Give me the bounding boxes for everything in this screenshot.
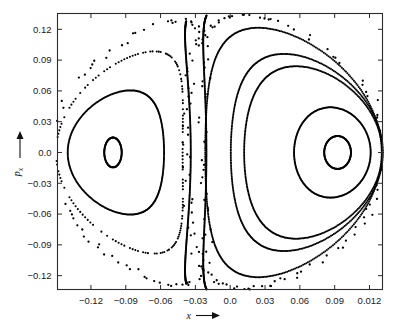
- data-point: [208, 262, 210, 264]
- data-point: [182, 102, 184, 104]
- x-tick-label: −0.12: [79, 295, 103, 306]
- data-point: [361, 212, 363, 214]
- data-point: [205, 251, 207, 253]
- data-point: [355, 220, 357, 222]
- data-point: [187, 284, 189, 286]
- x-tick-label: 0.012: [358, 295, 382, 306]
- data-point: [361, 91, 363, 93]
- data-point: [205, 111, 207, 113]
- data-point: [376, 116, 378, 118]
- data-point: [201, 268, 203, 270]
- data-point: [156, 50, 158, 52]
- data-point: [205, 190, 207, 192]
- data-point: [376, 114, 378, 116]
- data-point: [89, 221, 91, 223]
- data-point: [363, 94, 365, 96]
- data-point: [204, 151, 206, 153]
- data-point: [216, 279, 218, 281]
- data-point: [322, 261, 324, 263]
- data-point: [180, 227, 182, 229]
- data-point: [121, 152, 123, 154]
- y-tick-label: 0.06: [33, 85, 52, 96]
- data-point: [111, 255, 113, 257]
- data-point: [308, 38, 310, 40]
- data-point: [93, 60, 95, 62]
- y-axis-title-subscript: x: [16, 167, 25, 172]
- data-point: [129, 56, 131, 58]
- data-point: [182, 155, 184, 157]
- data-point: [123, 245, 125, 247]
- data-point: [129, 247, 131, 249]
- data-point: [185, 18, 187, 20]
- data-point: [309, 263, 311, 265]
- data-point: [72, 202, 74, 204]
- data-point: [204, 168, 206, 170]
- data-point: [132, 55, 134, 57]
- data-point: [76, 224, 78, 226]
- data-point: [205, 124, 207, 126]
- data-point: [334, 57, 336, 59]
- x-axis-title: x: [186, 310, 192, 321]
- data-point: [143, 276, 145, 278]
- data-point: [142, 52, 144, 54]
- data-point: [121, 44, 123, 46]
- data-point: [145, 277, 147, 279]
- data-point: [269, 285, 271, 287]
- data-point: [205, 113, 207, 115]
- data-point: [187, 87, 189, 89]
- data-point: [205, 118, 207, 120]
- data-point: [168, 249, 170, 251]
- data-point: [201, 85, 203, 87]
- data-point: [160, 252, 162, 254]
- data-point: [87, 84, 89, 86]
- data-point: [200, 182, 202, 184]
- data-point: [205, 177, 207, 179]
- data-point: [182, 179, 184, 181]
- data-point: [365, 208, 367, 210]
- data-point: [137, 250, 139, 252]
- data-point: [253, 285, 255, 287]
- data-point: [78, 76, 80, 78]
- data-point: [353, 233, 355, 235]
- data-point: [198, 25, 200, 27]
- y-axis-arrow-head: [17, 131, 24, 139]
- data-point: [187, 226, 189, 228]
- data-point: [103, 253, 105, 255]
- data-point: [363, 209, 365, 211]
- data-point: [365, 206, 367, 208]
- data-point: [326, 254, 328, 256]
- data-point: [178, 234, 180, 236]
- data-point: [206, 102, 208, 104]
- data-point: [345, 240, 347, 242]
- data-point: [182, 166, 184, 168]
- data-point: [134, 54, 136, 56]
- data-point: [163, 251, 165, 253]
- data-point: [186, 153, 188, 155]
- data-point: [182, 108, 184, 110]
- data-point: [206, 200, 208, 202]
- data-point: [182, 121, 184, 123]
- data-point: [84, 87, 86, 89]
- data-point: [205, 181, 207, 183]
- data-point: [218, 283, 220, 285]
- data-point: [190, 92, 192, 94]
- data-point: [178, 69, 180, 71]
- data-point: [198, 265, 200, 267]
- data-point: [198, 278, 200, 280]
- data-point: [182, 201, 184, 203]
- poincare-section-figure: −0.12−0.09−0.06−0.030.00.030.060.090.012…: [0, 0, 399, 329]
- data-point: [204, 150, 206, 152]
- data-point: [205, 179, 207, 181]
- data-point: [206, 99, 208, 101]
- data-point: [182, 148, 184, 150]
- data-point: [62, 107, 64, 109]
- data-point: [181, 215, 183, 217]
- y-axis-tick-labels: 0.120.090.060.030.0−0.03−0.06−0.09−0.12: [27, 24, 51, 281]
- data-point: [95, 77, 97, 79]
- data-point: [379, 130, 381, 132]
- data-point: [120, 243, 122, 245]
- data-point: [205, 192, 207, 194]
- data-point: [218, 21, 220, 23]
- data-point: [142, 251, 144, 253]
- data-point: [366, 95, 368, 97]
